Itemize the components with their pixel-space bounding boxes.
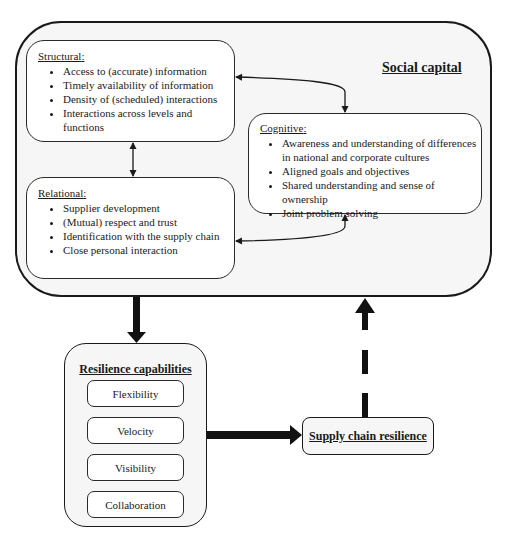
relational-item: (Mutual) respect and trust — [63, 215, 228, 229]
resilience-to-supply-chain-arrow — [207, 425, 302, 445]
cognitive-item: Awareness and understanding of differenc… — [282, 136, 477, 164]
cognitive-box: Cognitive: Awareness and understanding o… — [248, 113, 482, 214]
relational-title: Relational: — [38, 186, 228, 200]
cognitive-list: Awareness and understanding of differenc… — [260, 136, 477, 220]
supply-chain-resilience-box: Supply chain resilience — [302, 417, 434, 455]
cognitive-title: Cognitive: — [260, 121, 477, 135]
capability-collaboration: Collaboration — [87, 491, 184, 518]
structural-box: Structural: Access to (accurate) informa… — [26, 40, 235, 142]
structural-item: Density of (scheduled) interactions — [63, 92, 228, 106]
structural-item: Access to (accurate) information — [63, 64, 228, 78]
relational-item: Identification with the supply chain — [63, 229, 228, 243]
cognitive-item: Aligned goals and objectives — [282, 164, 477, 178]
social-capital-title: Social capital — [382, 60, 462, 76]
structural-item: Interactions across levels and functions — [63, 106, 228, 134]
capability-visibility: Visibility — [87, 454, 184, 481]
relational-item: Close personal interaction — [63, 243, 228, 257]
structural-title: Structural: — [38, 49, 228, 63]
structural-list: Access to (accurate) information Timely … — [38, 64, 228, 134]
social-to-resilience-arrow — [127, 297, 146, 343]
resilience-capabilities-title: Resilience capabilities — [64, 362, 207, 377]
relational-list: Supplier development (Mutual) respect an… — [38, 201, 228, 257]
relational-box: Relational: Supplier development (Mutual… — [26, 177, 235, 279]
supply-chain-to-social-dashed-arrow — [355, 298, 375, 417]
cognitive-item: Shared understanding and sense of owners… — [282, 178, 477, 206]
structural-item: Timely availability of information — [63, 78, 228, 92]
cognitive-item: Joint problem solving — [282, 206, 477, 220]
capability-flexibility: Flexibility — [87, 380, 184, 407]
relational-item: Supplier development — [63, 201, 228, 215]
capability-velocity: Velocity — [87, 417, 184, 444]
